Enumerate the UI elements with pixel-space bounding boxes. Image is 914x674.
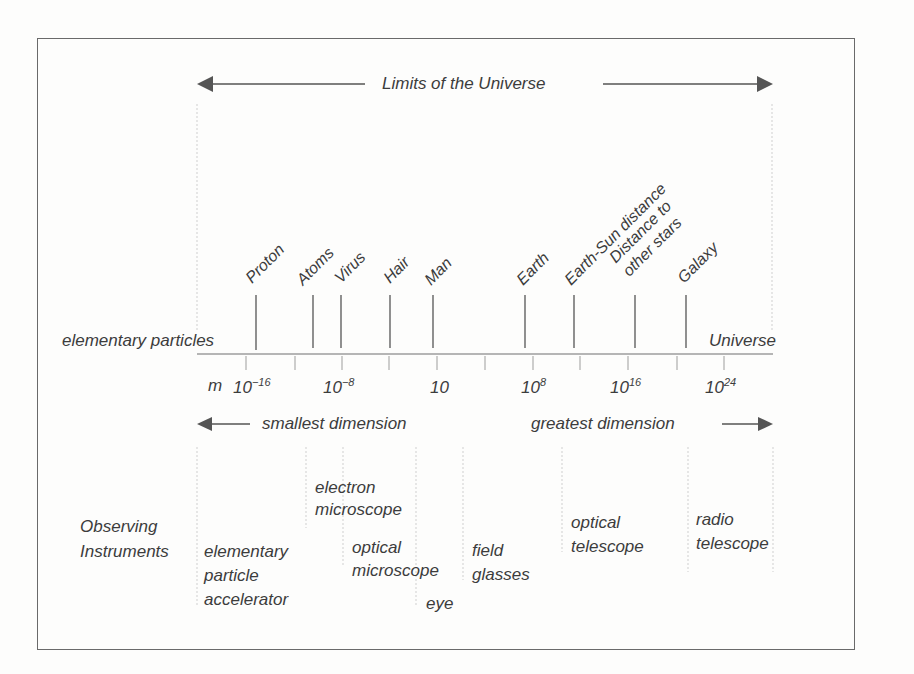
smallest-dimension-label: smallest dimension <box>262 415 407 432</box>
greatest-dimension-label: greatest dimension <box>531 415 675 432</box>
tick-label-1e-16: 10−16 <box>233 377 271 396</box>
universe-label: Universe <box>709 332 776 349</box>
elementary-particles-label: elementary particles <box>62 332 214 349</box>
scale-unit: m <box>208 377 222 394</box>
scale-ticks <box>246 356 724 370</box>
instrument-eye: eye <box>426 592 453 616</box>
marker-ticks <box>256 295 686 350</box>
instrument-optical-microscope: optical microscope <box>352 536 439 582</box>
observing-instruments-heading: Observing Instruments <box>80 514 169 564</box>
instrument-radio-telescope: radio telescope <box>696 508 769 556</box>
tick-label-1e16: 1016 <box>610 377 641 396</box>
limits-of-universe-title: Limits of the Universe <box>382 75 545 92</box>
instrument-field-glasses: field glasses <box>472 539 530 587</box>
tick-label-1e8: 108 <box>521 377 546 396</box>
tick-label-1e24: 1024 <box>705 377 736 396</box>
tick-label-1e-8: 10−8 <box>323 377 354 396</box>
instrument-optical-telescope: optical telescope <box>571 511 644 559</box>
instrument-particle-accelerator: elementary particle accelerator <box>204 540 288 612</box>
tick-label-10: 10 <box>430 377 449 396</box>
instrument-electron-microscope: electron microscope <box>315 477 402 521</box>
